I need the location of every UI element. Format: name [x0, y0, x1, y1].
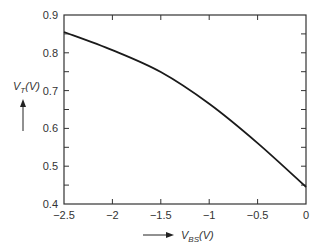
data-curve: [64, 32, 306, 187]
x-tick-label: −2: [106, 209, 119, 221]
axis-tick-labels: −2.5−2−1.5−1−0.500.40.50.60.70.80.9: [43, 9, 309, 221]
y-tick-label: 0.9: [43, 9, 58, 21]
threshold-voltage-chart: −2.5−2−1.5−1−0.500.40.50.60.70.80.9 VT(V…: [0, 0, 320, 250]
x-tick-label: −1: [203, 209, 216, 221]
x-tick-label: −1.5: [150, 209, 172, 221]
right-arrow-icon: [143, 232, 174, 238]
y-tick-label: 0.7: [43, 85, 58, 97]
y-tick-label: 0.6: [43, 122, 58, 134]
up-arrow-icon: [20, 99, 26, 131]
x-tick-label: −2.5: [53, 209, 75, 221]
axis-ticks: [64, 15, 306, 204]
y-tick-label: 0.5: [43, 160, 58, 172]
y-axis-label: VT(V): [13, 80, 40, 95]
y-tick-label: 0.4: [43, 198, 58, 210]
plot-frame: [64, 15, 306, 204]
x-axis-label: VBS(V): [181, 229, 214, 244]
x-tick-label: 0: [303, 209, 309, 221]
y-tick-label: 0.8: [43, 47, 58, 59]
x-tick-label: −0.5: [247, 209, 269, 221]
